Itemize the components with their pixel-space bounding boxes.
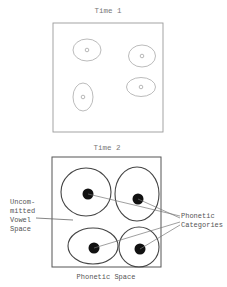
category-region: [115, 167, 159, 221]
label-line-2: mitted: [10, 207, 35, 215]
uncommitted-vowel-space-label: Uncom- mitted Vowel Space: [10, 198, 35, 233]
label-line-3: Vowel: [10, 216, 31, 224]
time-1-panel: [53, 23, 163, 132]
label-line-1: Phonetic: [181, 212, 215, 220]
time-2-title: Time 2: [93, 144, 120, 152]
label-line-4: Space: [10, 225, 31, 233]
category-region: [73, 39, 101, 61]
time-1-title: Time 1: [94, 7, 122, 15]
panel-frame: [53, 23, 163, 132]
category-region: [129, 45, 156, 67]
label-line-1: Uncom-: [10, 198, 35, 206]
category-boundary: [73, 39, 101, 61]
category-leader-line: [94, 222, 180, 248]
phonetic-space-caption: Phonetic Space: [77, 273, 136, 281]
phonetic-space-diagram: Time 1 Time 2 Uncom- mitted Vowel Space …: [0, 0, 227, 287]
category-boundary: [73, 83, 93, 111]
category-prototype-dot: [81, 95, 85, 99]
category-prototype-dot: [140, 54, 144, 58]
category-boundary: [127, 78, 156, 97]
phonetic-categories-label: Phonetic Categories: [181, 212, 223, 229]
category-region: [127, 78, 156, 97]
category-prototype-dot: [139, 85, 143, 89]
category-region: [61, 168, 111, 216]
time-2-panel: [52, 157, 161, 267]
category-region: [119, 227, 159, 267]
category-prototype-dot: [85, 48, 89, 52]
uncommitted-leader-line: [36, 218, 73, 220]
category-leader-line: [138, 199, 180, 218]
category-region: [73, 83, 93, 111]
label-line-2: Categories: [181, 221, 223, 229]
category-boundary: [129, 45, 156, 67]
category-region: [68, 228, 118, 264]
